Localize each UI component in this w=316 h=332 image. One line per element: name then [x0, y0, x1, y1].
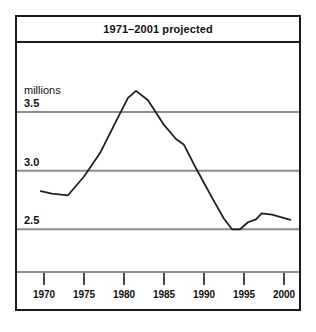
- x-tick-label-1970: 1970: [33, 289, 55, 300]
- chart-frame: 1971–2001 projected millions 3.5 3.0 2.5…: [15, 15, 301, 311]
- plot-svg: [17, 43, 299, 271]
- x-tick-label-1975: 1975: [73, 289, 95, 300]
- plot-area: millions 3.5 3.0 2.5 2.0: [17, 43, 299, 271]
- x-tick-label-1980: 1980: [113, 289, 135, 300]
- chart-title: 1971–2001 projected: [103, 23, 213, 35]
- y-tick-label-2-5: 2.5: [24, 214, 39, 226]
- x-ticks-group: [44, 273, 284, 285]
- y-tick-label-3-5: 3.5: [24, 97, 39, 109]
- x-tick-label-1985: 1985: [153, 289, 175, 300]
- y-axis-units-label: millions: [24, 84, 61, 96]
- x-axis-ticks-svg: [17, 273, 299, 287]
- chart-figure: 1971–2001 projected millions 3.5 3.0 2.5…: [0, 0, 316, 332]
- gridlines-group: [17, 112, 299, 229]
- chart-title-bar: 1971–2001 projected: [17, 17, 299, 43]
- x-tick-label-1990: 1990: [193, 289, 215, 300]
- x-axis: 1970197519801985199019952000: [17, 271, 299, 309]
- x-tick-label-1995: 1995: [233, 289, 255, 300]
- x-tick-label-2000: 2000: [273, 289, 295, 300]
- y-tick-label-3-0: 3.0: [24, 156, 39, 168]
